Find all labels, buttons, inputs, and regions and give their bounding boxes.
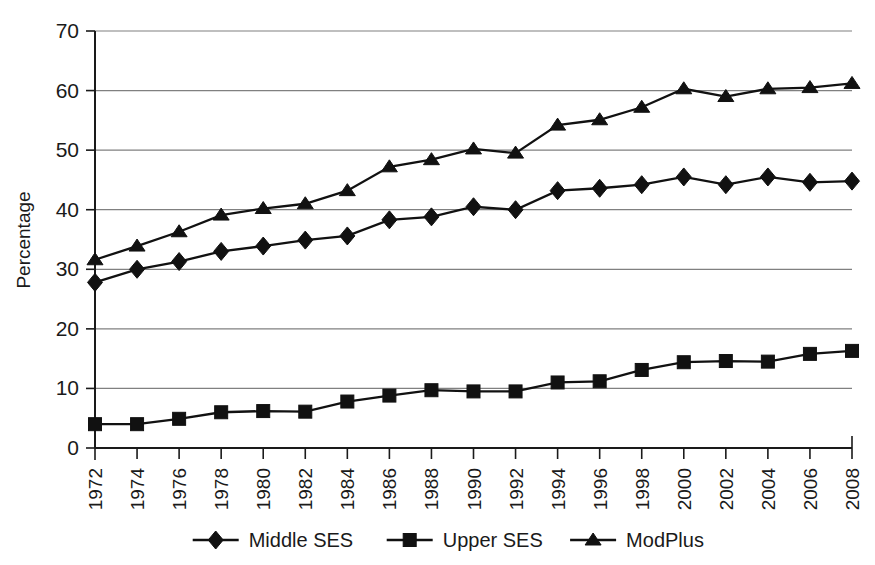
series-line (95, 83, 852, 259)
data-point-square (257, 405, 270, 418)
series-upper-ses (89, 344, 859, 430)
legend-label: Middle SES (249, 529, 354, 551)
x-tick-label: 2008 (842, 468, 863, 510)
data-point-square (215, 406, 228, 419)
x-tick-label: 1976 (169, 468, 190, 510)
legend-label: Upper SES (443, 529, 543, 551)
y-axis-ticks: 010203040506070 (56, 19, 95, 459)
data-point-diamond (466, 198, 481, 216)
data-point-diamond (424, 208, 439, 226)
y-tick-label: 20 (56, 317, 79, 340)
data-point-triangle (339, 184, 355, 196)
data-point-diamond (676, 168, 691, 186)
x-tick-label: 1992 (506, 468, 527, 510)
x-tick-label: 2002 (716, 468, 737, 510)
data-point-square (299, 405, 312, 418)
data-point-square (403, 534, 416, 547)
data-point-square (803, 347, 816, 360)
data-point-diamond (592, 179, 607, 197)
legend-item-upper-ses[interactable]: Upper SES (387, 529, 543, 551)
legend-item-modplus[interactable]: ModPlus (570, 529, 704, 551)
x-tick-label: 1988 (421, 468, 442, 510)
data-point-square (761, 355, 774, 368)
data-point-square (467, 385, 480, 398)
data-point-diamond (382, 211, 397, 229)
data-point-diamond (845, 172, 860, 190)
data-point-diamond (298, 231, 313, 249)
y-tick-label: 50 (56, 138, 79, 161)
data-point-square (89, 418, 102, 431)
data-point-triangle (634, 100, 650, 112)
data-point-diamond (802, 173, 817, 191)
data-point-square (383, 389, 396, 402)
x-tick-label: 1984 (337, 468, 358, 511)
data-point-square (509, 385, 522, 398)
y-tick-label: 60 (56, 79, 79, 102)
data-point-triangle (844, 76, 860, 88)
data-point-square (341, 395, 354, 408)
y-tick-label: 40 (56, 198, 79, 221)
x-tick-label: 1980 (253, 468, 274, 510)
data-point-diamond (214, 242, 229, 260)
x-tick-label: 1996 (590, 468, 611, 510)
data-point-square (846, 344, 859, 357)
data-point-diamond (508, 201, 523, 219)
data-point-diamond (256, 237, 271, 255)
line-chart: 010203040506070Percentage197219741976197… (0, 0, 875, 565)
chart-canvas: 010203040506070Percentage197219741976197… (0, 0, 875, 565)
x-tick-label: 1978 (211, 468, 232, 510)
data-point-square (719, 355, 732, 368)
data-point-diamond (550, 182, 565, 200)
y-axis-title: Percentage (13, 191, 34, 288)
data-point-diamond (208, 531, 223, 549)
data-point-square (131, 418, 144, 431)
data-point-triangle (676, 82, 692, 94)
data-point-square (677, 356, 690, 369)
series-middle-ses (88, 168, 860, 291)
data-point-square (173, 412, 186, 425)
series-modplus (87, 76, 860, 264)
y-tick-label: 30 (56, 257, 79, 280)
x-tick-label: 1998 (632, 468, 653, 510)
legend: Middle SESUpper SESModPlus (193, 529, 704, 551)
data-point-square (593, 375, 606, 388)
x-tick-label: 1990 (464, 468, 485, 510)
data-point-diamond (718, 176, 733, 194)
x-axis-ticks: 1972197419761978198019821984198619881990… (85, 448, 863, 510)
legend-item-middle-ses[interactable]: Middle SES (193, 529, 354, 551)
data-point-diamond (172, 253, 187, 271)
y-tick-label: 10 (56, 376, 79, 399)
data-point-diamond (634, 176, 649, 194)
x-tick-label: 1972 (85, 468, 106, 510)
data-point-diamond (130, 260, 145, 278)
data-point-square (425, 384, 438, 397)
x-tick-label: 1986 (379, 468, 400, 510)
x-tick-label: 2000 (674, 468, 695, 510)
data-point-square (635, 363, 648, 376)
data-point-diamond (88, 273, 103, 291)
y-tick-label: 0 (67, 436, 79, 459)
data-point-square (551, 376, 564, 389)
x-tick-label: 1994 (548, 468, 569, 511)
x-tick-label: 2004 (758, 468, 779, 511)
data-point-diamond (760, 168, 775, 186)
legend-label: ModPlus (626, 529, 704, 551)
x-tick-label: 2006 (800, 468, 821, 510)
series-line (95, 177, 852, 282)
x-tick-label: 1982 (295, 468, 316, 510)
data-point-triangle (466, 142, 482, 154)
data-point-diamond (340, 227, 355, 245)
y-tick-label: 70 (56, 19, 79, 42)
x-tick-label: 1974 (127, 468, 148, 511)
